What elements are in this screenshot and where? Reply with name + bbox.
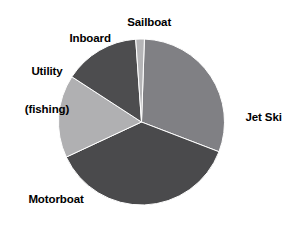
pie-label-motorboat: Motorboat (16, 180, 84, 218)
pie-label-inboard: Inboard (57, 19, 111, 57)
pie-label-inboard-text: Inboard (69, 32, 110, 44)
pie-chart: Jet Ski Motorboat Utility (fishing) Inbo… (0, 0, 291, 227)
pie-label-utility-line-1: Utility (9, 65, 85, 78)
pie-label-jet-ski-text: Jet Ski (245, 111, 281, 123)
pie-label-utility-line-2: (fishing) (9, 103, 85, 116)
pie-label-sailboat-text: Sailboat (127, 16, 171, 28)
pie-label-sailboat: Sailboat (110, 3, 176, 41)
pie-label-jet-ski: Jet Ski (233, 98, 282, 136)
pie-label-motorboat-text: Motorboat (28, 193, 83, 205)
